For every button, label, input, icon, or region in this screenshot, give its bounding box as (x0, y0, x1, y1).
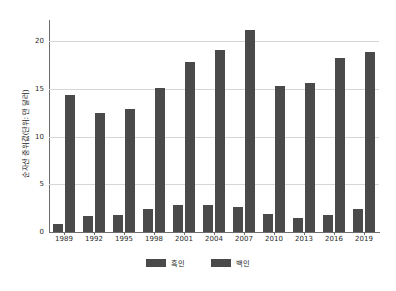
x-tick-mark (94, 232, 95, 235)
x-tick-mark (184, 232, 185, 235)
y-tick-label: 20 (24, 37, 44, 45)
x-tick-mark (154, 232, 155, 235)
bar (275, 86, 286, 232)
bar-group (199, 20, 229, 232)
bar (365, 52, 376, 232)
x-tick-mark (64, 232, 65, 235)
legend-swatch (211, 259, 231, 267)
bar (143, 209, 154, 232)
x-tick-mark (274, 232, 275, 235)
bar (185, 62, 196, 232)
legend: 흑인백인 (0, 258, 396, 268)
bar (305, 83, 316, 232)
y-tick-label: 5 (24, 180, 44, 188)
x-axis-tick-labels: 1989199219951998200120042007201020132016… (49, 234, 379, 248)
bar-group (139, 20, 169, 232)
y-tick-label: 0 (24, 228, 44, 236)
legend-item[interactable]: 흑인 (146, 258, 185, 268)
legend-item[interactable]: 백인 (211, 258, 250, 268)
bar (83, 216, 94, 232)
legend-label: 흑인 (171, 258, 185, 268)
bar-group (229, 20, 259, 232)
x-tick-mark (124, 232, 125, 235)
bar (95, 113, 106, 232)
bar-group (109, 20, 139, 232)
y-tick-label: 10 (24, 133, 44, 141)
bar (203, 205, 214, 232)
x-tick-mark (304, 232, 305, 235)
bar (173, 205, 184, 232)
bar-group (349, 20, 379, 232)
bar-group (79, 20, 109, 232)
bar (233, 207, 244, 232)
legend-swatch (146, 259, 166, 267)
x-tick-label: 2019 (344, 235, 384, 243)
bar (155, 88, 166, 232)
x-tick-mark (214, 232, 215, 235)
bar-group (319, 20, 349, 232)
bar (113, 215, 124, 232)
bar (215, 50, 226, 232)
bar (53, 224, 64, 232)
bar-group (259, 20, 289, 232)
x-tick-mark (364, 232, 365, 235)
legend-label: 백인 (236, 258, 250, 268)
bar (245, 30, 256, 232)
bar (323, 215, 334, 232)
bar (65, 95, 76, 232)
y-tick-label: 15 (24, 85, 44, 93)
bar-chart: 순자산 중위값(단위: 만 달러) 05101520 1989199219951… (0, 0, 396, 291)
bar-group (289, 20, 319, 232)
bar (293, 218, 304, 232)
bar (125, 109, 136, 232)
bar-group (169, 20, 199, 232)
plot-area (49, 20, 379, 232)
x-tick-mark (334, 232, 335, 235)
x-tick-mark (244, 232, 245, 235)
bar (353, 209, 364, 232)
bar (263, 214, 274, 232)
bar-group (49, 20, 79, 232)
y-axis-tick-labels: 05101520 (22, 0, 44, 291)
bars (49, 20, 379, 232)
bar (335, 58, 346, 232)
